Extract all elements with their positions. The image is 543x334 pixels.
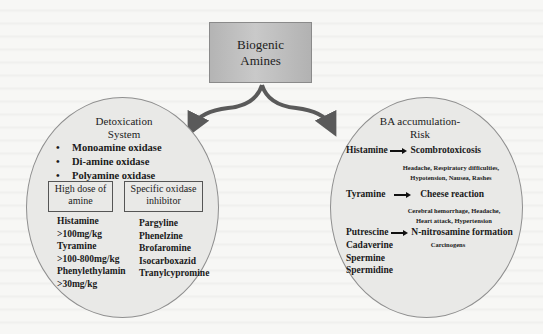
tyramine-effects: Cerebral hemorrhage, Headache, Heart att… <box>398 206 510 225</box>
inhibitor-item: Tranylcypromine <box>139 267 209 280</box>
effects-line: Heart attack, Hypertension <box>398 216 510 226</box>
arrow-to-detoxication <box>193 85 262 126</box>
outcome-label: Scombrotoxicosis <box>410 145 481 155</box>
enzyme-list: •Monoamine oxidase •Di-amine oxidase •Po… <box>56 141 162 183</box>
inhibitor-item: Pargyline <box>139 217 209 230</box>
high-dose-item: Phenylethylamin <box>57 265 126 278</box>
outcome-label: N-nitrosamine formation <box>411 227 512 237</box>
outcome-label: Cheese reaction <box>420 189 484 199</box>
risk-row-putrescine: Putrescine N-nitrosamine formation <box>346 226 513 238</box>
ba-risk-heading: BA accumulation- Risk <box>364 115 476 141</box>
arrow-to-risk <box>262 85 331 126</box>
arrow-right-icon <box>394 191 412 199</box>
high-dose-item: >30mg/kg <box>57 278 126 291</box>
enzyme-label: Polyamine oxidase <box>72 170 155 181</box>
inhibitor-item: Brofaromine <box>139 242 209 255</box>
inhibitor-item: Phenelzine <box>139 230 209 243</box>
root-title-line2: Amines <box>237 53 284 69</box>
other-amine-item: Spermine <box>346 252 393 265</box>
other-amines-list: Cadaverine Spermine Spermidine <box>346 239 393 277</box>
inhibitor-line1: Specific oxidase <box>125 183 202 195</box>
inhibitor-list: Pargyline Phenelzine Brofaromine Isocarb… <box>139 217 209 280</box>
bullet-icon: • <box>56 155 72 169</box>
detoxication-heading: Detoxication System <box>88 115 160 141</box>
amine-label: Putrescine <box>346 227 389 237</box>
risk-row-tyramine: Tyramine Cheese reaction <box>346 188 484 200</box>
high-dose-item: Histamine <box>57 215 126 228</box>
amine-label: Tyramine <box>346 189 385 199</box>
effects-line: Headache, Respiratory difficulties, <box>392 163 510 173</box>
arrow-right-icon <box>390 147 408 155</box>
oxidase-inhibitor-box: Specific oxidase inhibitor <box>124 181 203 212</box>
enzyme-item: •Di-amine oxidase <box>56 155 162 169</box>
high-dose-item: Tyramine <box>57 240 126 253</box>
amine-label: Histamine <box>346 145 388 155</box>
effects-line: Cerebral hemorrhage, Headache, <box>398 206 510 216</box>
enzyme-label: Di-amine oxidase <box>72 156 149 167</box>
high-dose-box: High dose of amine <box>48 181 113 212</box>
high-dose-line2: amine <box>49 195 112 207</box>
risk-row-histamine: Histamine Scombrotoxicosis <box>346 144 481 156</box>
high-dose-list: Histamine >100mg/kg Tyramine >100-800mg/… <box>57 215 126 291</box>
high-dose-line1: High dose of <box>49 183 112 195</box>
other-amine-item: Spermidine <box>346 264 393 277</box>
root-title-line1: Biogenic <box>237 37 284 53</box>
arrow-right-icon <box>391 229 409 237</box>
enzyme-label: Monoamine oxidase <box>72 142 162 153</box>
other-amine-item: Cadaverine <box>346 239 393 252</box>
enzyme-item: •Monoamine oxidase <box>56 141 162 155</box>
biogenic-amines-node: Biogenic Amines <box>209 22 312 83</box>
high-dose-item: >100mg/kg <box>57 228 126 241</box>
effects-line: Hypotension, Nausea, Rashes <box>392 173 510 183</box>
putrescine-effects: Carcinogens <box>418 240 478 250</box>
inhibitor-item: Isocarboxazid <box>139 255 209 268</box>
risk-heading-line2: Risk <box>364 128 476 141</box>
bullet-icon: • <box>56 141 72 155</box>
high-dose-item: >100-800mg/kg <box>57 253 126 266</box>
detoxication-heading-line2: System <box>88 128 160 141</box>
detoxication-heading-line1: Detoxication <box>88 115 160 128</box>
effects-line: Carcinogens <box>418 240 478 250</box>
inhibitor-line2: inhibitor <box>125 195 202 207</box>
histamine-effects: Headache, Respiratory difficulties, Hypo… <box>392 163 510 182</box>
risk-heading-line1: BA accumulation- <box>364 115 476 128</box>
